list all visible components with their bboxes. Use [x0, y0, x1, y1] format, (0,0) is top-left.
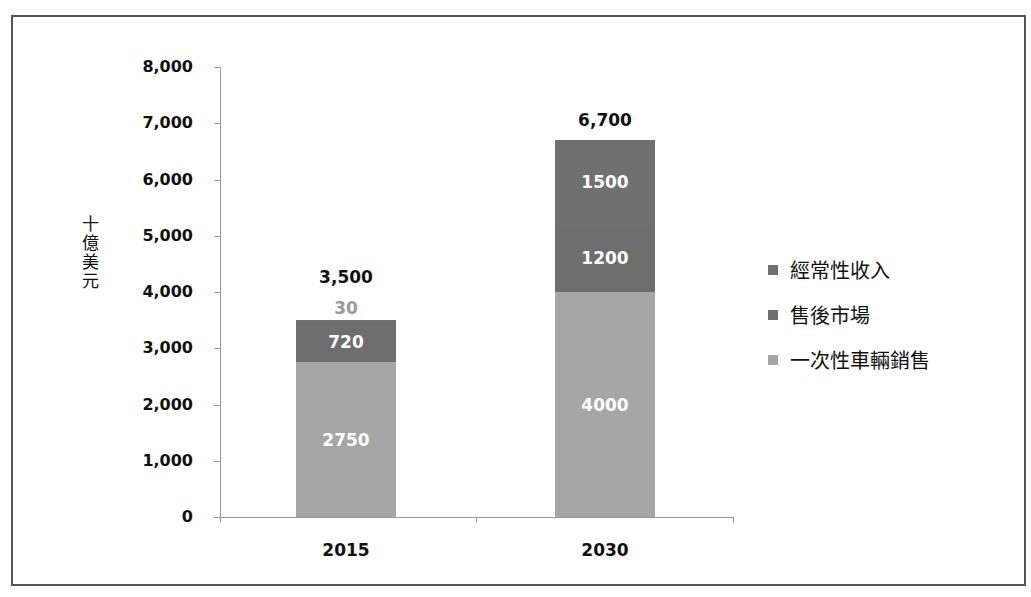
- y-tick-label: 1,000: [113, 453, 193, 469]
- y-tick-label: 5,000: [113, 228, 193, 244]
- x-tick-label: 2015: [286, 540, 406, 560]
- bar-segment: 720: [296, 322, 396, 363]
- bar-segment: 4000: [555, 292, 655, 517]
- legend-label: 經常性收入: [790, 255, 890, 284]
- bar-segment: 2750: [296, 362, 396, 517]
- legend-item: 一次性車輛銷售: [768, 345, 930, 374]
- y-tick-label: 6,000: [113, 172, 193, 188]
- legend-label: 一次性車輛銷售: [790, 345, 930, 374]
- y-tick-label: 2,000: [113, 397, 193, 413]
- legend-swatch-icon: [768, 310, 778, 320]
- bar-segment: [296, 320, 396, 322]
- y-axis-label-text: 十億美元: [80, 215, 100, 291]
- legend-label: 售後市場: [790, 300, 870, 329]
- legend-swatch-icon: [768, 265, 778, 275]
- x-axis-tick: [220, 517, 221, 523]
- y-axis-label: 十億美元: [80, 215, 100, 291]
- bar-segment-label: 30: [286, 298, 406, 318]
- y-tick-label: 3,000: [113, 340, 193, 356]
- y-tick-label: 0: [113, 509, 193, 525]
- y-tick-label: 4,000: [113, 284, 193, 300]
- bar-segment: 1500: [555, 140, 655, 224]
- x-axis-tick: [476, 517, 477, 523]
- bar-total-label: 6,700: [545, 110, 665, 130]
- x-tick-label: 2030: [545, 540, 665, 560]
- bar-segment: 1200: [555, 225, 655, 293]
- y-tick-label: 7,000: [113, 115, 193, 131]
- legend-item: 售後市場: [768, 300, 870, 329]
- x-axis-line: [215, 517, 734, 518]
- bar-total-label: 3,500: [286, 267, 406, 287]
- y-axis-line: [220, 67, 221, 518]
- x-axis-tick: [733, 517, 734, 523]
- legend-item: 經常性收入: [768, 255, 890, 284]
- y-tick-label: 8,000: [113, 59, 193, 75]
- legend-swatch-icon: [768, 355, 778, 365]
